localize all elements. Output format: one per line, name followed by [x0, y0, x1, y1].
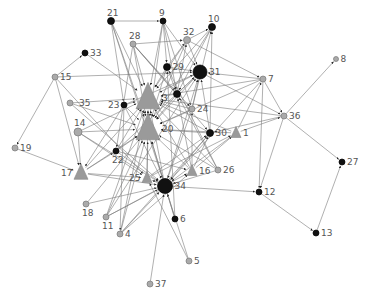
node-label-24: 24 [197, 104, 209, 114]
node-16[interactable] [187, 165, 197, 176]
node-29[interactable] [164, 64, 171, 71]
edge-36-27 [286, 118, 339, 160]
node-label-7: 7 [268, 74, 274, 84]
node-label-11: 11 [102, 221, 113, 231]
edge-13-27 [317, 166, 341, 230]
node-7[interactable] [260, 76, 266, 82]
node-label-22: 22 [112, 155, 123, 165]
node-4[interactable] [117, 231, 123, 237]
node-label-4: 4 [125, 229, 131, 239]
node-label-34: 34 [175, 181, 187, 191]
edge-15-25 [57, 79, 143, 173]
node-label-29: 29 [173, 62, 185, 72]
node-19[interactable] [12, 145, 18, 151]
edge-1-7 [238, 83, 261, 129]
node-33[interactable] [82, 50, 88, 56]
node-label-37: 37 [155, 279, 166, 289]
edge-12-13 [261, 194, 312, 231]
node-27[interactable] [339, 159, 345, 165]
node-label-30: 30 [216, 128, 228, 138]
node-label-16: 16 [199, 166, 211, 176]
node-12[interactable] [256, 189, 262, 195]
node-31[interactable] [193, 65, 207, 79]
node-label-19: 19 [20, 143, 32, 153]
node-label-18: 18 [82, 208, 94, 218]
edge-36-8 [286, 62, 334, 114]
node-22[interactable] [113, 148, 119, 154]
node-label-5: 5 [194, 256, 200, 266]
node-37[interactable] [147, 281, 153, 287]
node-label-27: 27 [347, 157, 358, 167]
node-label-33: 33 [90, 48, 101, 58]
node-label-25: 25 [129, 173, 140, 183]
label-layer: 1345678910111213141516171819202122232425… [20, 8, 358, 290]
node-35[interactable] [67, 100, 73, 106]
node-label-36: 36 [289, 111, 301, 121]
node-17[interactable] [74, 164, 88, 179]
node-label-8: 8 [341, 54, 347, 64]
node-6[interactable] [172, 216, 178, 222]
node-x1[interactable] [174, 91, 181, 98]
edge-15-19 [17, 80, 54, 145]
node-3[interactable] [136, 82, 160, 108]
node-label-3: 3 [162, 93, 168, 103]
node-label-28: 28 [129, 31, 141, 41]
node-23[interactable] [121, 102, 127, 108]
node-label-9: 9 [159, 8, 165, 18]
node-14[interactable] [74, 128, 82, 136]
node-11[interactable] [103, 214, 109, 220]
edge-30-10 [210, 31, 212, 129]
edge-18-20 [88, 139, 140, 202]
edge-7-36 [264, 82, 282, 113]
edge-layer [17, 21, 341, 281]
node-label-20: 20 [162, 124, 174, 134]
node-30[interactable] [207, 130, 214, 137]
node-10[interactable] [209, 24, 216, 31]
node-label-6: 6 [180, 214, 186, 224]
edge-22-3 [118, 109, 142, 148]
node-label-21: 21 [107, 8, 118, 18]
node-label-15: 15 [60, 72, 71, 82]
edge-36-3 [161, 100, 281, 116]
node-24[interactable] [189, 106, 195, 112]
edge-23-34 [125, 108, 161, 179]
node-label-13: 13 [321, 228, 332, 238]
node-18[interactable] [83, 201, 89, 207]
node-label-32: 32 [183, 27, 194, 37]
edge-35-34 [72, 105, 158, 180]
node-label-12: 12 [264, 187, 275, 197]
node-15[interactable] [52, 74, 58, 80]
edge-22-20 [118, 136, 137, 149]
node-28[interactable] [130, 41, 136, 47]
edge-23-4 [120, 108, 124, 230]
node-label-14: 14 [74, 118, 86, 128]
edge-7-12 [259, 82, 263, 188]
node-layer [12, 18, 345, 288]
node-label-26: 26 [223, 165, 235, 175]
network-graph: 1345678910111213141516171819202122232425… [0, 0, 365, 297]
node-5[interactable] [186, 258, 192, 264]
node-13[interactable] [313, 230, 319, 236]
node-34[interactable] [158, 179, 173, 194]
node-8[interactable] [334, 57, 339, 62]
node-36[interactable] [281, 113, 287, 119]
node-9[interactable] [160, 18, 166, 24]
node-label-1: 1 [243, 128, 249, 138]
node-label-10: 10 [208, 14, 220, 24]
edge-14-17 [78, 136, 80, 165]
node-32[interactable] [184, 37, 191, 44]
node-1[interactable] [231, 127, 241, 138]
edge-4-20 [121, 142, 145, 232]
node-label-31: 31 [209, 67, 220, 77]
node-label-17: 17 [61, 168, 72, 178]
node-21[interactable] [108, 18, 115, 25]
edge-21-23 [112, 24, 124, 101]
node-label-35: 35 [79, 98, 90, 108]
node-20[interactable] [136, 113, 160, 139]
node-label-23: 23 [108, 100, 119, 110]
node-26[interactable] [215, 167, 221, 173]
edge-36-12 [260, 119, 283, 188]
